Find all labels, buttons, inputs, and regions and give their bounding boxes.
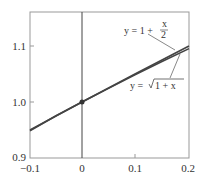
y-tick-label: 1.1 [12,40,26,52]
annotation-linear: y = 1 + x 2 [124,18,168,40]
chart: 1.1 1.0 0.9 −0.1 0 0.1 0.2 y = 1 + x 2 y… [0,0,204,180]
fraction-numerator: x [162,18,167,29]
annotation-sqrt-prefix: y = [130,80,144,91]
x-tick-label: 0.1 [128,162,142,174]
x-tick-label: 0 [79,162,85,174]
annotation-sqrt: y = 1 + x [130,79,184,91]
x-tick-label: −0.1 [20,162,40,174]
x-tick-label: 0.2 [181,162,195,174]
y-tick-label: 1.0 [12,96,26,108]
fraction-denominator: 2 [161,29,166,40]
annotation-linear-text: y = 1 + [124,25,153,36]
point-0-1 [80,100,85,105]
annotation-sqrt-arg: 1 + x [155,80,176,91]
